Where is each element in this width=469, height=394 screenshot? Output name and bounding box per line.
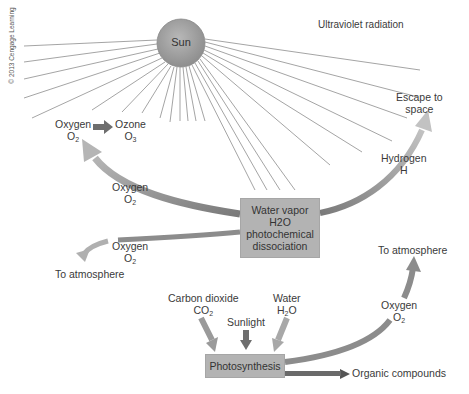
- organic-compounds-label: Organic compounds: [352, 367, 446, 379]
- water-vapor-dissociation-box: Water vapor H2O photochemical dissociati…: [240, 198, 320, 258]
- oxygen-to-ozone-arrow: [93, 120, 113, 134]
- arc-arrowhead-atmosphere: [406, 256, 421, 272]
- photosynthesis-oxygen-arc: [285, 320, 390, 362]
- sunlight-label: Sunlight: [227, 316, 265, 328]
- uv-rays: [24, 39, 420, 190]
- ozone-label: Ozone O3: [115, 118, 146, 146]
- copyright-notice: © 2013 Cengage Learning: [4, 8, 14, 88]
- to-atmosphere-left-label: To atmosphere: [55, 268, 124, 280]
- to-atmosphere-right-label: To atmosphere: [378, 244, 447, 256]
- water-label: Water H2O: [273, 292, 301, 320]
- oxygen-left-label: Oxygen O2: [112, 240, 148, 268]
- photosynthesis-box: Photosynthesis: [205, 354, 285, 378]
- sun-label: Sun: [157, 36, 205, 48]
- uv-radiation-label: Ultraviolet radiation: [318, 19, 404, 31]
- oxygen-mid-label: Oxygen O2: [112, 181, 148, 209]
- hydrogen-label: Hydrogen H: [381, 152, 427, 176]
- oxygen-right-label: Oxygen O2: [381, 299, 417, 327]
- co2-arrow: [201, 318, 212, 340]
- water-arrow: [278, 318, 287, 340]
- diagram-artwork: [0, 0, 469, 394]
- oxygen-top-label: Oxygen O2: [55, 118, 91, 146]
- escape-to-space-label: Escape to space: [396, 91, 443, 115]
